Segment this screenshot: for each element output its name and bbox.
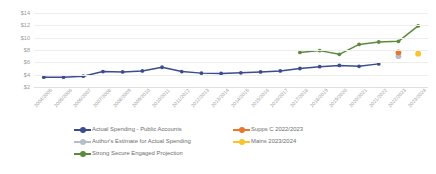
x-axis-tick-label: 2016/2017 (269, 88, 289, 109)
legend-item[interactable]: Author's Estimate for Actual Spending (74, 136, 191, 147)
data-point (278, 69, 282, 73)
data-point (337, 64, 341, 68)
gridline (34, 25, 428, 26)
x-axis-tick-label: 2004/2005 (33, 88, 53, 109)
legend-item[interactable]: Actual Spending - Public Accounts (74, 124, 182, 135)
x-axis-tick-label: 2022/2023 (388, 88, 408, 109)
data-point (318, 65, 322, 69)
data-point (298, 51, 302, 55)
data-point (140, 69, 144, 73)
legend-row: Strong Secure Engaged Projection (0, 148, 436, 159)
data-point (42, 75, 46, 79)
legend-label: Strong Secure Engaged Projection (92, 150, 183, 157)
legend-item[interactable]: Supps C 2022/2023 (233, 124, 303, 135)
legend-marker-icon (233, 138, 250, 145)
data-point (101, 70, 105, 74)
gridline (34, 75, 428, 76)
x-axis-tick-label: 2006/2007 (72, 88, 92, 109)
x-axis-tick-label: 2017/2018 (289, 88, 309, 109)
legend-label: Actual Spending - Public Accounts (92, 126, 182, 133)
x-axis-tick-label: 2010/2011 (151, 88, 171, 108)
legend-marker-icon (74, 138, 91, 145)
data-point (337, 52, 341, 56)
x-axis-tick-label: 2015/2016 (250, 88, 270, 109)
data-point (259, 70, 263, 74)
legend-label: Author's Estimate for Actual Spending (92, 138, 191, 145)
y-axis-tick-label: $8 (24, 47, 30, 53)
y-axis-tick-label: $6 (24, 59, 30, 65)
x-axis-tick-label: 2008/2009 (112, 88, 132, 109)
y-axis-tick-label: $4 (24, 72, 30, 78)
y-axis-tick-label: $2 (24, 84, 30, 90)
data-point (377, 40, 381, 44)
x-axis-tick-label: 2018/2019 (309, 88, 329, 109)
data-point (121, 70, 125, 74)
y-axis: $14$12$10$8$6$4$2 (0, 0, 34, 92)
data-point (415, 51, 421, 57)
x-axis-tick-label: 2023/2024 (407, 88, 427, 109)
line-chart: $14$12$10$8$6$4$2 2004/20052005/20062006… (0, 0, 436, 174)
x-axis-tick-label: 2009/2010 (132, 88, 152, 109)
x-axis-tick-label: 2011/2012 (171, 88, 191, 108)
legend-marker-icon (74, 150, 91, 157)
x-axis: 2004/20052005/20062006/20072007/20082008… (34, 89, 428, 123)
legend-marker-icon (233, 126, 250, 133)
chart-legend: Actual Spending - Public AccountsSupps C… (0, 124, 436, 170)
legend-row: Actual Spending - Public AccountsSupps C… (0, 124, 436, 135)
y-axis-tick-label: $14 (21, 10, 30, 16)
x-axis-tick-label: 2007/2008 (92, 88, 112, 109)
legend-row: Author's Estimate for Actual SpendingMai… (0, 136, 436, 147)
data-point (298, 67, 302, 71)
data-point (357, 43, 361, 47)
x-axis-tick-label: 2021/2022 (368, 88, 388, 109)
plot-area (34, 13, 428, 87)
legend-marker-icon (74, 126, 91, 133)
data-point (357, 64, 361, 68)
x-axis-tick-label: 2014/2015 (230, 88, 250, 109)
x-axis-tick-label: 2005/2006 (53, 88, 73, 109)
gridline (34, 38, 428, 39)
gridline (34, 13, 428, 14)
data-point (160, 65, 164, 69)
gridline (34, 50, 428, 51)
legend-label: Supps C 2022/2023 (251, 126, 303, 133)
y-axis-tick-label: $10 (21, 35, 30, 41)
x-axis-tick-label: 2013/2014 (210, 88, 230, 109)
x-axis-tick-label: 2019/2020 (329, 88, 349, 109)
data-point (62, 75, 66, 79)
legend-item[interactable]: Strong Secure Engaged Projection (74, 148, 183, 159)
gridline (34, 62, 428, 63)
x-axis-tick-label: 2020/2021 (348, 88, 368, 109)
data-point (180, 70, 184, 74)
y-axis-tick-label: $12 (21, 22, 30, 28)
x-axis-line (34, 87, 428, 88)
legend-label: Mains 2023/2024 (251, 138, 296, 145)
legend-item[interactable]: Mains 2023/2024 (233, 136, 296, 147)
x-axis-tick-label: 2012/2013 (191, 88, 211, 109)
data-point (397, 39, 401, 43)
